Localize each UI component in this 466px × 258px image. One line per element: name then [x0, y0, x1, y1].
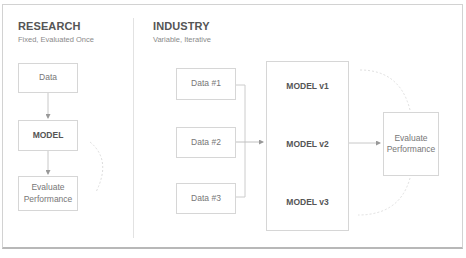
- industry-feedback-loop-bottom: [358, 178, 410, 215]
- industry-feedback-loop-top: [360, 70, 410, 110]
- research-feedback-loop: [90, 142, 103, 192]
- data1-connector: [236, 85, 245, 197]
- connectors: [0, 0, 466, 258]
